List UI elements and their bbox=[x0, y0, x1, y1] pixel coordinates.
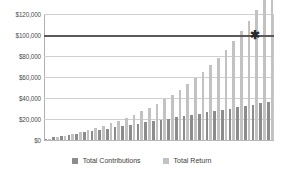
bar-group bbox=[68, 14, 74, 140]
bar-total-return bbox=[179, 90, 182, 140]
bar-group bbox=[206, 14, 212, 140]
bar-total-return bbox=[79, 132, 82, 140]
bar-total-contributions bbox=[152, 121, 155, 140]
chart-legend: Total Contributions Total Return bbox=[0, 157, 283, 164]
bar-total-return bbox=[87, 130, 90, 140]
bar-total-contributions bbox=[198, 114, 201, 140]
y-tick-label: $40,000 bbox=[19, 95, 41, 102]
bar-group bbox=[52, 14, 58, 140]
bar-group bbox=[114, 14, 120, 140]
y-tick-label: $120,000 bbox=[16, 11, 41, 18]
bar-total-contributions bbox=[183, 116, 186, 140]
bar-total-contributions bbox=[175, 117, 178, 140]
bar-total-return bbox=[202, 72, 205, 140]
bar-total-contributions bbox=[60, 136, 63, 140]
bar-group bbox=[183, 14, 189, 140]
gridline bbox=[44, 140, 274, 141]
bar-group bbox=[229, 14, 235, 140]
reference-line-100k bbox=[44, 35, 274, 37]
bar-total-contributions bbox=[121, 126, 124, 140]
bar-total-contributions bbox=[129, 125, 132, 140]
bar-total-contributions bbox=[206, 112, 209, 140]
bar-total-return bbox=[163, 99, 166, 140]
bar-total-return bbox=[56, 137, 59, 140]
bar-series-container bbox=[44, 14, 274, 140]
y-tick-label: $100,000 bbox=[16, 32, 41, 39]
bar-total-return bbox=[133, 115, 136, 140]
bar-group bbox=[267, 14, 273, 140]
bar-total-return bbox=[140, 111, 143, 140]
bar-total-contributions bbox=[137, 124, 140, 140]
legend-swatch-total-return bbox=[163, 158, 169, 164]
bar-group bbox=[259, 14, 265, 140]
bar-group bbox=[45, 14, 51, 140]
bar-total-return bbox=[125, 118, 128, 140]
bar-total-return bbox=[263, 0, 266, 140]
bar-total-contributions bbox=[98, 130, 101, 140]
bar-total-contributions bbox=[190, 115, 193, 140]
bar-group bbox=[98, 14, 104, 140]
bar-total-return bbox=[117, 121, 120, 140]
plot-area: ✱ bbox=[44, 14, 274, 140]
bar-group bbox=[83, 14, 89, 140]
legend-label-total-return: Total Return bbox=[174, 157, 212, 164]
bar-group bbox=[236, 14, 242, 140]
bar-total-contributions bbox=[236, 107, 239, 140]
bar-total-contributions bbox=[52, 137, 55, 140]
bar-total-contributions bbox=[267, 102, 270, 140]
bar-group bbox=[121, 14, 127, 140]
bar-total-return bbox=[232, 41, 235, 140]
bar-total-contributions bbox=[91, 131, 94, 140]
bar-group bbox=[75, 14, 81, 140]
y-tick-label: $80,000 bbox=[19, 53, 41, 60]
bar-group bbox=[129, 14, 135, 140]
bar-group bbox=[60, 14, 66, 140]
bar-total-contributions bbox=[160, 120, 163, 140]
bar-total-contributions bbox=[68, 135, 71, 140]
bar-total-return bbox=[194, 78, 197, 140]
legend-item-total-return: Total Return bbox=[163, 157, 212, 164]
bar-total-contributions bbox=[144, 122, 147, 140]
bar-total-contributions bbox=[229, 109, 232, 141]
bar-total-contributions bbox=[114, 127, 117, 140]
bar-total-return bbox=[110, 123, 113, 140]
bar-group bbox=[198, 14, 204, 140]
bar-total-contributions bbox=[259, 103, 262, 140]
bar-total-return bbox=[217, 58, 220, 140]
bar-group bbox=[144, 14, 150, 140]
bar-total-contributions bbox=[244, 106, 247, 140]
bar-total-contributions bbox=[45, 139, 48, 140]
y-tick-label: $0 bbox=[34, 137, 41, 144]
bar-total-return bbox=[102, 126, 105, 140]
bar-total-return bbox=[186, 84, 189, 140]
bar-group bbox=[221, 14, 227, 140]
bar-group bbox=[106, 14, 112, 140]
bar-total-return bbox=[271, 0, 274, 140]
bar-total-return bbox=[225, 50, 228, 141]
legend-swatch-total-contributions bbox=[72, 158, 78, 164]
bar-group bbox=[91, 14, 97, 140]
bar-group bbox=[137, 14, 143, 140]
y-tick-label: $20,000 bbox=[19, 116, 41, 123]
bar-group bbox=[190, 14, 196, 140]
bar-total-return bbox=[71, 134, 74, 140]
bar-total-return bbox=[240, 31, 243, 140]
bar-group bbox=[160, 14, 166, 140]
y-axis-labels: $120,000$100,000$80,000$60,000$40,000$20… bbox=[0, 0, 41, 179]
bar-total-return bbox=[209, 65, 212, 140]
bar-total-return bbox=[148, 108, 151, 140]
legend-label-total-contributions: Total Contributions bbox=[83, 157, 141, 164]
bar-group bbox=[175, 14, 181, 140]
bar-group bbox=[152, 14, 158, 140]
investment-growth-chart: $120,000$100,000$80,000$60,000$40,000$20… bbox=[0, 0, 283, 179]
bar-total-return bbox=[48, 139, 51, 140]
bar-total-contributions bbox=[167, 119, 170, 140]
legend-item-total-contributions: Total Contributions bbox=[72, 157, 141, 164]
bar-group bbox=[167, 14, 173, 140]
bar-total-contributions bbox=[83, 132, 86, 140]
bar-total-return bbox=[94, 128, 97, 140]
bar-total-contributions bbox=[213, 111, 216, 140]
bar-total-contributions bbox=[221, 110, 224, 140]
bar-total-return bbox=[64, 136, 67, 140]
bar-group bbox=[213, 14, 219, 140]
